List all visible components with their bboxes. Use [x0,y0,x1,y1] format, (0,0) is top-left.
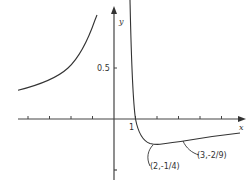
curve-right-branch [130,0,240,144]
min-point-label: (2,-1/4) [150,162,180,171]
x-tick-label: 1 [129,123,134,132]
y-axis-label: y [118,17,124,26]
function-graph: y x 0.5 1 (2,-1/4) (3,-2/9) [0,0,252,193]
y-tick-label: 0.5 [97,64,110,73]
y-axis-arrow-icon [111,6,117,14]
inflection-point-label: (3,-2/9) [197,151,227,160]
x-axis-arrow-icon [238,116,246,122]
x-axis-label: x [239,123,244,132]
curve-left-branch [18,15,97,90]
